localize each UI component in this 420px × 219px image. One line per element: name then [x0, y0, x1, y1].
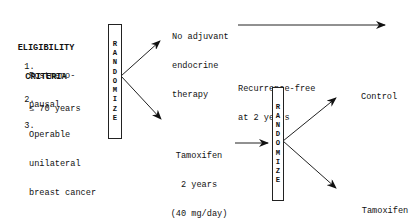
criterion-line: Operable: [29, 131, 96, 141]
arm-tamoxifen-3-years: Tamoxifen 3 years (40 mg/day): [354, 188, 416, 219]
arm-control: Control: [361, 93, 397, 103]
randomize-letter: E: [276, 176, 280, 185]
randomize-letter: A: [113, 49, 117, 58]
criterion-2: 2. ≤ 70 years: [14, 86, 35, 115]
criterion-line: breast cancer: [29, 189, 96, 199]
arm-line: Tamoxifen: [354, 207, 416, 217]
arrow-to-tamoxifen-3y: [283, 141, 336, 188]
randomize-letter: Z: [113, 105, 117, 114]
randomize-letter: A: [276, 112, 280, 121]
arm-line: 2 years: [168, 181, 230, 191]
arm-line: therapy: [172, 91, 229, 101]
arm-line: endocrine: [172, 62, 229, 72]
criterion-3: 3. Operable unilateral breast cancer: [14, 112, 35, 141]
randomize-box-1: R A N D O M I Z E: [108, 24, 122, 139]
randomize-box-2: R A N D O M I Z E: [272, 87, 284, 201]
randomize-letter: N: [113, 58, 117, 67]
randomize-letter: M: [276, 149, 280, 158]
criterion-line: unilateral: [29, 160, 96, 170]
randomize-letter: I: [113, 95, 117, 104]
randomize-letter: Z: [276, 167, 280, 176]
randomize-letter: D: [113, 68, 117, 77]
criterion-1: 1. Postmeno- pausal: [14, 53, 35, 82]
randomize-letter: O: [113, 77, 117, 86]
arm-tamoxifen-2-years: Tamoxifen 2 years (40 mg/day): [168, 133, 230, 219]
randomize-letter: I: [276, 158, 280, 167]
criterion-line: Postmeno-: [29, 72, 75, 82]
randomize-letter: O: [276, 139, 280, 148]
randomize-letter: E: [113, 114, 117, 123]
arrow-to-tamoxifen-2y: [121, 76, 161, 119]
arm-line: Tamoxifen: [168, 152, 230, 162]
randomize-letter: D: [276, 130, 280, 139]
randomize-letter: R: [276, 103, 280, 112]
arm-line: (40 mg/day): [168, 210, 230, 219]
randomize-letter: M: [113, 86, 117, 95]
randomize-letter: N: [276, 121, 280, 130]
randomize-letter: R: [113, 40, 117, 49]
arm-line: No adjuvant: [172, 33, 229, 43]
arm-no-adjuvant: No adjuvant endocrine therapy: [172, 14, 229, 110]
arrow-to-no-adjuvant: [121, 41, 160, 76]
